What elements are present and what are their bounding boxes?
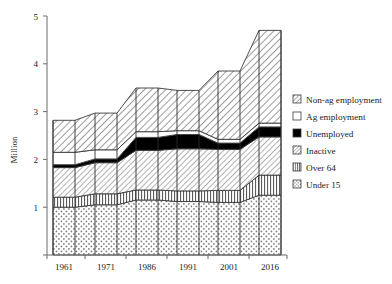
legend-swatch-vertical-lines-icon: [293, 163, 301, 171]
legend-label-unemployed: Unemployed: [306, 129, 354, 139]
legend-item-under-15: Under 15: [293, 180, 341, 190]
x-tick-label-1971: 1971: [97, 262, 115, 272]
y-tick-label-3: 3: [34, 107, 39, 117]
legend-label-under-15: Under 15: [306, 180, 341, 190]
y-tick-label-2: 2: [34, 155, 39, 165]
y-axis-title: Million: [9, 136, 19, 164]
y-tick-label-4: 4: [34, 59, 39, 69]
x-tick-label-2016: 2016: [261, 262, 280, 272]
x-tick-label-2001: 2001: [220, 262, 238, 272]
x-axis-ticks: [47, 255, 287, 259]
legend-item-over-64: Over 64: [293, 163, 336, 173]
legend-item-inactive: Inactive: [293, 146, 336, 156]
x-axis: 1961 1971 1986 1991 2001 2016: [47, 255, 287, 272]
x-tick-label-1986: 1986: [138, 262, 157, 272]
legend-swatch-white-icon: [293, 112, 301, 120]
legend-label-ag-employment: Ag employment: [306, 112, 366, 122]
legend-item-unemployed: Unemployed: [293, 129, 354, 139]
y-tick-label-5: 5: [34, 12, 39, 22]
legend-item-ag-employment: Ag employment: [293, 112, 366, 122]
legend: Non-ag employment Ag employment Unemploy…: [293, 95, 382, 190]
legend-label-non-ag-employment: Non-ag employment: [306, 95, 382, 105]
legend-swatch-solid-black-icon: [293, 129, 301, 137]
x-tick-label-1961: 1961: [55, 262, 73, 272]
x-tick-label-1991: 1991: [179, 262, 197, 272]
legend-label-over-64: Over 64: [306, 163, 336, 173]
stacked-area-chart: 5 4 3 2 1 Million: [0, 0, 392, 284]
legend-item-non-ag-employment: Non-ag employment: [293, 95, 382, 105]
y-axis-ticks: [43, 16, 47, 255]
legend-swatch-hatch-icon: [293, 95, 301, 103]
legend-label-inactive: Inactive: [306, 146, 336, 156]
y-axis: 5 4 3 2 1 Million: [9, 12, 47, 256]
y-tick-label-1: 1: [34, 203, 39, 213]
legend-swatch-dense-hatch-icon: [293, 146, 301, 154]
chart-canvas: 5 4 3 2 1 Million: [0, 0, 392, 284]
legend-swatch-dotted-icon: [293, 180, 301, 188]
